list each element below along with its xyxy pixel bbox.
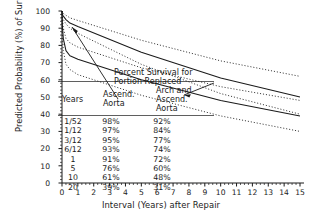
- table-cell-arch-ascend-aorta: 92%: [134, 117, 190, 126]
- table-cell-arch-ascend-aorta: 60%: [134, 164, 190, 173]
- years-column-header: Years: [62, 95, 83, 104]
- table-cell-years: 1/52: [58, 117, 88, 126]
- table-row: 1/5298%92%: [58, 117, 190, 126]
- table-cell-arch-ascend-aorta: 48%: [134, 173, 190, 182]
- table-cell-ascend-aorta: 95%: [88, 136, 134, 145]
- table-cell-arch-ascend-aorta: 74%: [134, 145, 190, 154]
- table-cell-arch-ascend-aorta: 72%: [134, 155, 190, 164]
- col-a-line2: Aorta: [103, 99, 135, 108]
- table-cell-ascend-aorta: 91%: [88, 155, 134, 164]
- table-cell-ascend-aorta: 61%: [88, 173, 134, 182]
- col-b-line2: Ascend.: [156, 95, 192, 104]
- col-a-line1: Ascend.: [103, 90, 135, 99]
- table-title-line1: Percent Survival for: [114, 68, 192, 77]
- table-cell-years: 1: [58, 155, 88, 164]
- table-row: 2039%31%: [58, 183, 190, 192]
- table-cell-ascend-aorta: 93%: [88, 145, 134, 154]
- table-cell-years: 3/12: [58, 136, 88, 145]
- table-title: Percent Survival for Portion Replaced: [114, 68, 192, 87]
- survival-data-table: 1/5298%92%1/1297%84%3/1295%77%6/1293%74%…: [58, 117, 190, 192]
- table-cell-ascend-aorta: 76%: [88, 164, 134, 173]
- table-cell-ascend-aorta: 98%: [88, 117, 134, 126]
- arch-ascend-aorta-column-header: Arch and Ascend. Aorta: [156, 86, 192, 114]
- table-cell-ascend-aorta: 39%: [88, 183, 134, 192]
- table-row: 3/1295%77%: [58, 136, 190, 145]
- table-cell-years: 10: [58, 173, 88, 182]
- table-cell-years: 6/12: [58, 145, 88, 154]
- ascend-aorta-column-header: Ascend. Aorta: [103, 90, 135, 108]
- table-row: 576%60%: [58, 164, 190, 173]
- table-cell-arch-ascend-aorta: 77%: [134, 136, 190, 145]
- table-row: 1/1297%84%: [58, 126, 190, 135]
- table-cell-years: 1/12: [58, 126, 88, 135]
- col-b-line1: Arch and: [156, 86, 192, 95]
- survival-chart-figure: Predicted Probability (%) of Survival In…: [0, 0, 322, 218]
- table-row: 1061%48%: [58, 173, 190, 182]
- table-row: 6/1293%74%: [58, 145, 190, 154]
- table-cell-arch-ascend-aorta: 31%: [134, 183, 190, 192]
- table-cell-ascend-aorta: 97%: [88, 126, 134, 135]
- table-row: 191%72%: [58, 155, 190, 164]
- table-cell-years: 20: [58, 183, 88, 192]
- table-cell-years: 5: [58, 164, 88, 173]
- col-b-line3: Aorta: [156, 104, 192, 113]
- table-cell-arch-ascend-aorta: 84%: [134, 126, 190, 135]
